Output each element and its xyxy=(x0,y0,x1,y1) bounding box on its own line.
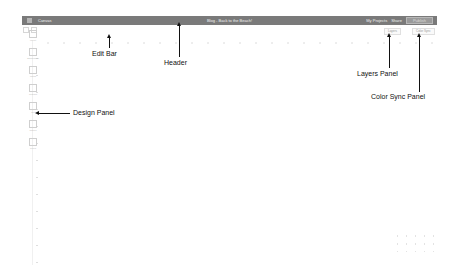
tool-label: Layout xyxy=(22,39,44,42)
tool-layout[interactable]: Layout xyxy=(22,30,44,47)
tool-text[interactable]: Text xyxy=(22,102,44,119)
tool-label: Photos xyxy=(22,75,44,78)
color-sync-panel-tab[interactable]: Color Sync xyxy=(412,28,435,35)
layers-panel-annotation: Layers Panel xyxy=(357,70,398,77)
text-icon xyxy=(29,102,37,110)
header-actions: My Projects Share Publish xyxy=(366,17,433,24)
color-sync-panel-annotation: Color Sync Panel xyxy=(371,93,425,100)
edit-bar-annotation: Edit Bar xyxy=(92,50,117,57)
tool-label: Graphics xyxy=(22,93,44,96)
my-projects-link[interactable]: My Projects xyxy=(366,18,387,24)
publish-button[interactable]: Publish xyxy=(406,17,433,24)
tool-label: Shapes xyxy=(22,129,44,132)
design-panel-arrow xyxy=(38,113,70,114)
edit-bar-arrow xyxy=(109,37,110,48)
layers-panel-arrow xyxy=(389,36,390,68)
tool-photos[interactable]: Photos xyxy=(22,66,44,83)
edit-bar xyxy=(22,25,437,35)
tool-shapes[interactable]: Shapes xyxy=(22,120,44,137)
photo-icon xyxy=(29,66,37,74)
layout-icon xyxy=(29,30,37,38)
horizontal-ruler xyxy=(40,42,435,44)
color-sync-panel-arrow xyxy=(419,36,420,92)
canvas-grid-dots xyxy=(393,232,438,252)
header-arrow xyxy=(179,25,180,57)
shape-icon xyxy=(29,120,37,128)
tool-label: Colors xyxy=(22,147,44,150)
color-icon xyxy=(29,138,37,146)
tool-colors[interactable]: Colors xyxy=(22,138,44,155)
design-panel: Layout Backgrounds Photos Graphics Text … xyxy=(22,30,44,156)
tool-backgrounds[interactable]: Backgrounds xyxy=(22,48,44,65)
share-button[interactable]: Share xyxy=(391,18,402,24)
header-bar: Canvas Blog - Back to the Beach! My Proj… xyxy=(22,16,437,25)
tool-label: Backgrounds xyxy=(22,57,44,60)
header-annotation: Header xyxy=(164,59,187,66)
tool-graphics[interactable]: Graphics xyxy=(22,84,44,101)
design-panel-annotation: Design Panel xyxy=(73,109,115,116)
graphics-icon xyxy=(29,84,37,92)
background-icon xyxy=(29,48,37,56)
